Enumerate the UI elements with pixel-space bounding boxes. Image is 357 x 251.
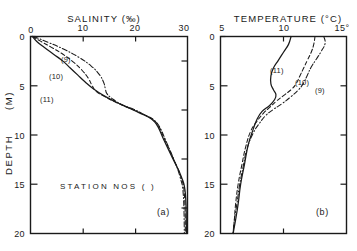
panel-b-ytick-15: 15 (204, 180, 215, 190)
panel-b-right-ticks (341, 86, 347, 184)
panel-a-ytick-5: 5 (20, 82, 25, 92)
panel-a-curve-label-9: (9) (61, 55, 71, 64)
panel-a-xtick-0: 0 (28, 25, 33, 35)
panel-a-station-note: STATION NOS ( ) (60, 182, 156, 191)
depth-profile-figure: SALINITY (‰) 0 10 20 30 0 5 (0, 0, 357, 251)
panel-a-xtick-10: 10 (78, 23, 89, 33)
panel-a-curve-label-11: (11) (40, 95, 54, 104)
panel-b-curve-label-9: (9) (315, 86, 325, 95)
panel-a-ytick-20: 20 (14, 229, 25, 239)
panel-a-ytick-15: 15 (14, 180, 25, 190)
panel-a-xtick-30: 30 (179, 23, 190, 33)
panel-b-xtick-15: 15° (335, 23, 350, 33)
panel-b-ytick-20: 20 (204, 229, 215, 239)
panel-a-curve-label-10: (10) (49, 72, 63, 81)
curve-station-10 (33, 37, 186, 234)
panel-b: TEMPERATURE (°C) 5 10 15° 0 5 10 15 (204, 13, 349, 239)
panel-b-curve-label-10: (10) (295, 78, 309, 87)
panel-b-ytick-5: 5 (210, 82, 215, 92)
depth-axis-unit: (M) (3, 91, 14, 110)
panel-b-marker: (b) (316, 207, 329, 217)
panel-a-yticks: 0 5 10 15 20 (14, 32, 37, 239)
panel-a: SALINITY (‰) 0 10 20 30 0 5 (14, 13, 189, 239)
panel-b-ytick-10: 10 (204, 131, 215, 141)
depth-axis-word: DEPTH (3, 135, 14, 175)
panel-b-xtick-5: 5 (219, 23, 224, 33)
panel-b-curve-label-11: (11) (270, 66, 284, 75)
panel-a-curves (33, 37, 187, 234)
panel-b-xtick-10: 10 (279, 23, 290, 33)
panel-a-xticks-bottom (83, 229, 135, 234)
panel-a-xticks-top (83, 37, 135, 42)
depth-axis-label: DEPTH (M) (3, 91, 14, 175)
panel-a-xtick-20: 20 (130, 23, 141, 33)
panel-a-ytick-10: 10 (14, 131, 25, 141)
panel-b-ytick-0: 0 (210, 32, 215, 42)
panel-b-yticks: 0 5 10 15 20 (204, 32, 227, 239)
panel-a-ytick-0: 0 (20, 32, 25, 42)
figure-container: SALINITY (‰) 0 10 20 30 0 5 (0, 0, 357, 251)
panel-a-marker: (a) (157, 207, 170, 217)
